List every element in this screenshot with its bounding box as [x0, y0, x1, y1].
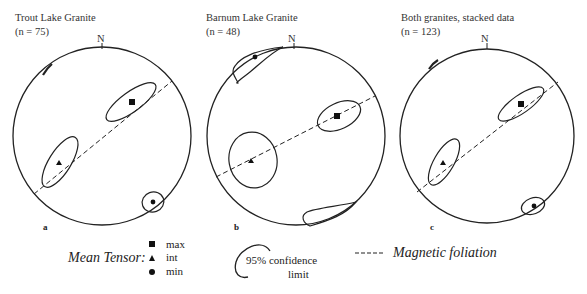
legend-max-label: max	[166, 238, 185, 250]
max-square-icon	[518, 101, 524, 107]
stereonet-c: Both granites, stacked data (n = 123) N …	[400, 12, 574, 232]
legend-int-label: int	[166, 251, 178, 263]
panel-b-letter: b	[234, 222, 239, 232]
min-circle-icon	[151, 200, 156, 205]
panel-b-title: Barnum Lake Granite	[206, 12, 298, 23]
min-circle-icon	[253, 55, 258, 60]
confidence-label-1: 95% confidence	[246, 254, 317, 266]
panel-c-letter: c	[430, 222, 434, 232]
panel-b-north: N	[288, 33, 296, 44]
max-square-icon	[334, 113, 340, 119]
stereonet-a: Trout Lake Granite (n = 75) N a	[13, 12, 191, 232]
panel-a-title: Trout Lake Granite	[15, 12, 96, 23]
min-circle-icon	[532, 204, 537, 209]
mean-tensor-label: Mean Tensor:	[67, 250, 146, 265]
panel-b-count: (n = 48)	[206, 26, 240, 38]
panel-c-count: (n = 123)	[401, 26, 441, 38]
min-circle-icon	[149, 269, 155, 275]
stereonet-b: Barnum Lake Granite (n = 48) N b	[206, 12, 385, 232]
foliation-label: Magnetic foliation	[392, 245, 497, 260]
int-triangle-icon	[440, 160, 446, 165]
panel-a-count: (n = 75)	[15, 26, 49, 38]
panel-c-north: N	[481, 33, 489, 44]
int-triangle-icon	[56, 160, 62, 165]
foliation-line-c	[417, 82, 558, 192]
legend-confidence: 95% confidence limit	[235, 245, 317, 280]
legend-min-label: min	[166, 265, 184, 277]
foliation-line-b	[216, 96, 375, 177]
stereonet-figure: Trout Lake Granite (n = 75) N a Barnum L…	[0, 0, 587, 294]
panel-a-letter: a	[43, 222, 48, 232]
legend-mean-tensor: Mean Tensor: max int min	[67, 238, 185, 277]
panel-a-north: N	[97, 33, 105, 44]
legend-foliation: Magnetic foliation	[355, 245, 497, 260]
int-triangle-icon	[149, 255, 155, 261]
panel-c-title: Both granites, stacked data	[401, 12, 514, 23]
max-square-icon	[149, 241, 155, 247]
confidence-label-2: limit	[288, 268, 309, 280]
foliation-line-a	[34, 81, 172, 194]
max-square-icon	[129, 99, 135, 105]
